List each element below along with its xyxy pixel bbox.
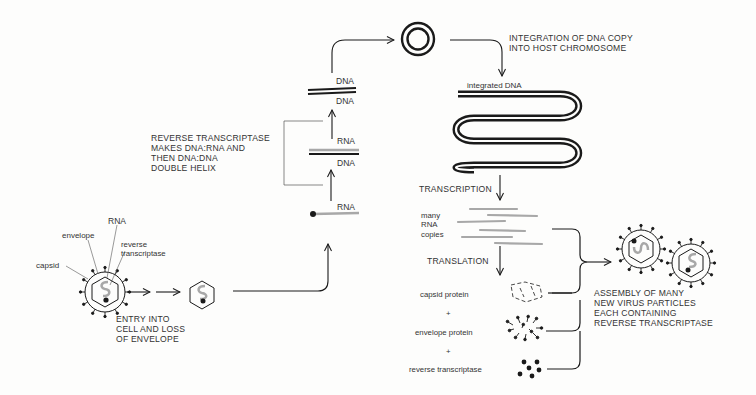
virion-rna-label: RNA: [108, 217, 126, 226]
new-virion-icon: [666, 238, 715, 287]
hybrid-dna-label: DNA: [337, 159, 355, 168]
capsid-icon: [190, 281, 214, 309]
plus-sign: +: [446, 310, 451, 319]
virion-envelope-label: envelope: [62, 232, 94, 240]
reverse-transcriptase-label: reverse transcriptase: [409, 366, 482, 375]
hybrid-rna-label: RNA: [337, 137, 355, 146]
dna-double-strand-icon: [308, 88, 356, 94]
rna-copies-icon: [458, 209, 542, 244]
circular-dna-icon: [402, 23, 434, 55]
translation-step-label: TRANSLATION: [427, 256, 489, 266]
capsid-protein-icon: [511, 282, 542, 302]
new-virion-icon: [616, 224, 665, 273]
assembly-step-label: ASSEMBLY OF MANY NEW VIRUS PARTICLES EAC…: [594, 288, 713, 329]
dna-rna-hybrid-icon: [309, 150, 359, 154]
envelope-protein-icon: [506, 315, 543, 341]
many-rna-copies-label: many RNA copies: [421, 211, 444, 239]
plus-sign: +: [446, 348, 451, 357]
reverse-transcriptase-icon: [518, 360, 542, 379]
assembly-brace: [546, 229, 588, 369]
ds-dna-top-label: DNA: [336, 77, 354, 86]
virion-icon: [79, 266, 130, 317]
single-rna-label: RNA: [337, 203, 355, 212]
virion-reverse-transcriptase-label: reverse transcriptase: [121, 241, 166, 258]
retrovirus-lifecycle-diagram: [0, 0, 756, 395]
reverse-transcription-step-label: REVERSE TRANSCRIPTASE MAKES DNA:RNA AND …: [151, 133, 270, 174]
integration-step-label: INTEGRATION OF DNA COPY INTO HOST CHROMO…: [509, 33, 633, 53]
integrated-dna-label: integrated DNA: [467, 82, 522, 90]
virion-capsid-label: capsid: [36, 262, 59, 270]
capsid-protein-label: capsid protein: [420, 291, 469, 300]
ds-dna-bottom-label: DNA: [336, 97, 354, 106]
host-chromosome-icon: [456, 94, 579, 170]
transcription-step-label: TRANSCRIPTION: [419, 184, 492, 194]
entry-step-label: ENTRY INTO CELL AND LOSS OF ENVELOPE: [116, 314, 185, 344]
envelope-protein-label: envelope protein: [415, 329, 473, 338]
